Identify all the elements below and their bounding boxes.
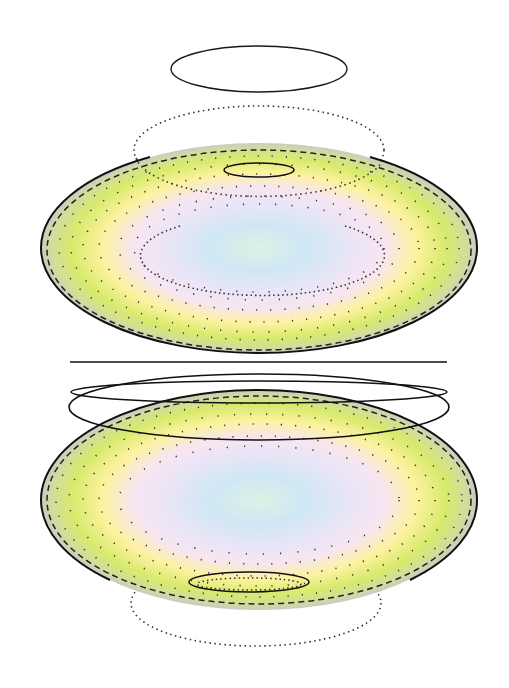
floating-outline-ellipse: [171, 46, 347, 92]
diagram-canvas: [0, 0, 509, 688]
upper-surface-group: [41, 46, 477, 353]
upper-surface: [41, 143, 477, 353]
lower-surface: [41, 390, 477, 610]
ellipsoid-figure: [0, 0, 509, 688]
lower-surface-group: [41, 374, 477, 646]
